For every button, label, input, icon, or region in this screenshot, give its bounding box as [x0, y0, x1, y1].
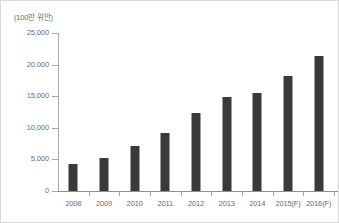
bar: [69, 164, 78, 191]
bar: [253, 93, 262, 191]
y-axis-tick-label: 10,000: [27, 123, 49, 132]
x-axis-tick-label: 2014: [249, 199, 265, 208]
bar: [222, 97, 231, 191]
x-axis-tick-mark: [273, 191, 274, 196]
x-axis-line: [58, 191, 339, 192]
y-axis-tick-label: 5,000: [31, 154, 49, 163]
bar: [192, 113, 201, 191]
y-axis-tick-label: 0: [45, 186, 49, 195]
x-axis-tick-label: 2016(F): [306, 199, 331, 208]
x-axis-tick-mark: [119, 191, 120, 196]
x-axis-tick-label: 2008: [65, 199, 81, 208]
x-axis-tick-label: 2011: [158, 199, 174, 208]
x-axis-tick-label: 2012: [188, 199, 204, 208]
y-axis-tick-mark: [52, 191, 58, 192]
x-axis-tick-label: 2015(F): [275, 199, 300, 208]
bar: [130, 146, 139, 191]
x-axis-tick-mark: [89, 191, 90, 196]
x-axis-tick-label: 2013: [219, 199, 235, 208]
y-axis-unit-label: (100만 위안): [14, 11, 53, 22]
bar: [100, 158, 109, 191]
bar: [161, 133, 170, 191]
y-axis-tick-label: 20,000: [27, 60, 49, 69]
x-axis-tick-label: 2009: [96, 199, 112, 208]
x-axis-tick-mark: [181, 191, 182, 196]
x-axis-tick-mark: [211, 191, 212, 196]
bar-chart-figure: (100만 위안) 05,00010,00015,00020,00025,000…: [0, 0, 339, 223]
x-axis-tick-label: 2010: [127, 199, 143, 208]
x-axis-tick-mark: [242, 191, 243, 196]
y-axis-tick-label: 25,000: [27, 28, 49, 37]
x-axis-tick-mark: [303, 191, 304, 196]
bar: [284, 76, 293, 191]
x-axis-tick-mark: [334, 191, 335, 196]
plot-area: [58, 33, 334, 191]
y-axis-tick-label: 15,000: [27, 91, 49, 100]
x-axis-tick-mark: [150, 191, 151, 196]
bar: [314, 56, 323, 191]
